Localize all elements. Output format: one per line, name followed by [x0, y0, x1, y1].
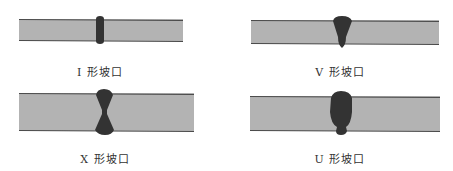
- v-groove-figure: [251, 16, 439, 48]
- weld-groove-diagram: I 形坡口 V 形坡口 X 形坡口 U 形坡口: [0, 0, 453, 171]
- i-groove-label: I 形坡口: [40, 63, 160, 79]
- diagram-canvas: [0, 0, 453, 171]
- i-groove-figure: [19, 16, 183, 44]
- u-groove-label: U 形坡口: [280, 150, 400, 166]
- u-groove-figure: [250, 91, 440, 135]
- x-groove-figure: [19, 89, 194, 135]
- x-groove-label: X 形坡口: [45, 150, 165, 166]
- i-groove-weld: [96, 16, 104, 44]
- v-groove-label: V 形坡口: [280, 63, 400, 79]
